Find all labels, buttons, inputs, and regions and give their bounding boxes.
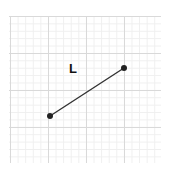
segment-label: L <box>69 62 77 75</box>
right-endpoint-dot <box>121 65 127 71</box>
line-segment <box>50 68 124 116</box>
segment-diagram <box>0 0 172 171</box>
left-endpoint-dot <box>47 113 53 119</box>
